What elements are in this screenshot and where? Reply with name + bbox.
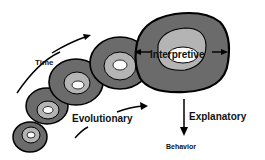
behavior-label: Behavior [166, 143, 196, 150]
interpretive-label: Interpretive [150, 49, 205, 60]
time-label: Time [35, 58, 54, 67]
evolutionary-label: Evolutionary [72, 113, 133, 124]
diagram-canvas: Time Interpretive Evolutionary Explanato… [0, 0, 265, 160]
explanatory-label: Explanatory [189, 111, 247, 122]
stage-1-shape [13, 122, 47, 152]
explanatory-arrow [180, 99, 188, 136]
